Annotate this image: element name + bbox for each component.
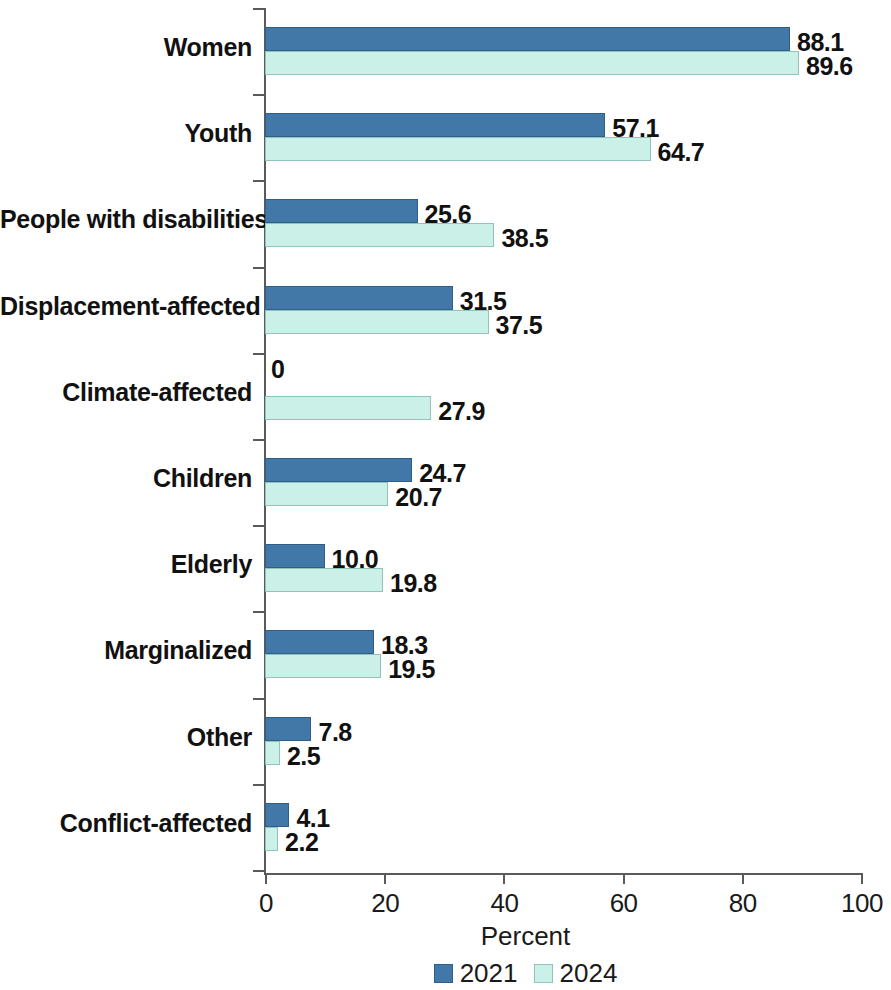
x-axis-tick-label: 60 [584,888,664,919]
legend-swatch-icon [534,964,553,983]
bar-2024 [265,223,494,247]
bar-group: Elderly10.019.8 [0,525,891,611]
category-label: Displacement-affected [0,292,252,321]
x-axis-tick-label: 100 [822,888,891,919]
legend-item-2021[interactable]: 2021 [434,958,518,989]
horizontal-bar-chart: 020406080100 Women88.189.6Youth57.164.7P… [0,0,891,990]
category-label: Marginalized [0,636,252,665]
bar-group: Women88.189.6 [0,8,891,94]
bar-2024 [265,741,280,765]
x-axis-tick-label: 80 [703,888,783,919]
bar-2024 [265,482,388,506]
y-axis-tick [253,870,265,872]
chart-legend: 20212024 [0,958,891,989]
bar-group: Other7.82.5 [0,698,891,784]
bar-value-label: 7.8 [318,718,351,747]
bar-value-label: 19.5 [388,655,435,684]
bar-2024 [265,51,799,75]
category-label: Elderly [0,550,252,579]
bar-value-label: 19.8 [390,569,437,598]
x-axis-tick-label: 20 [345,888,425,919]
category-label: People with disabilities [0,205,252,234]
bar-2024 [265,827,278,851]
bar-value-label: 2.2 [285,828,318,857]
bar-group: Children24.720.7 [0,439,891,525]
bar-2024 [265,568,383,592]
legend-item-2024[interactable]: 2024 [534,958,618,989]
bar-2021 [265,113,605,137]
category-label: Climate-affected [0,378,252,407]
legend-label: 2024 [560,958,618,989]
bar-value-label: 38.5 [501,224,548,253]
category-label: Children [0,464,252,493]
bar-2021 [265,803,289,827]
category-label: Women [0,33,252,62]
bar-group: Displacement-affected31.537.5 [0,267,891,353]
bar-2021 [265,199,418,223]
bar-group: Conflict-affected4.12.2 [0,784,891,870]
bar-value-label: 89.6 [806,52,853,81]
x-axis-tick-label: 0 [226,888,306,919]
bar-2024 [265,310,489,334]
x-axis-tick [623,873,625,884]
bar-2021 [265,630,374,654]
category-label: Youth [0,119,252,148]
x-axis-tick [503,873,505,884]
bar-value-label: 0 [271,355,284,384]
bar-value-label: 37.5 [496,311,543,340]
legend-swatch-icon [434,964,453,983]
bar-2021 [265,544,325,568]
x-axis-tick [265,873,267,884]
bar-group: Climate-affected027.9 [0,353,891,439]
bar-2021 [265,27,790,51]
category-label: Conflict-affected [0,809,252,838]
bar-value-label: 2.5 [287,742,320,771]
x-axis-title-text: Percent [481,921,571,951]
category-label: Other [0,723,252,752]
bar-2024 [265,137,651,161]
bar-2021 [265,717,311,741]
x-axis-tick [384,873,386,884]
bar-value-label: 27.9 [438,397,485,426]
bar-group: Marginalized18.319.5 [0,611,891,697]
bar-2024 [265,396,431,420]
bar-2024 [265,654,381,678]
bar-2021 [265,458,412,482]
bar-group: Youth57.164.7 [0,94,891,180]
bar-2021 [265,286,453,310]
x-axis-tick [742,873,744,884]
bar-value-label: 64.7 [658,138,705,167]
x-axis-tick [861,873,863,884]
bar-group: People with disabilities25.638.5 [0,180,891,266]
x-axis-title: Percent [0,921,891,952]
legend-label: 2021 [460,958,518,989]
x-axis-line [264,873,863,875]
bar-value-label: 20.7 [395,483,442,512]
x-axis-tick-label: 40 [464,888,544,919]
